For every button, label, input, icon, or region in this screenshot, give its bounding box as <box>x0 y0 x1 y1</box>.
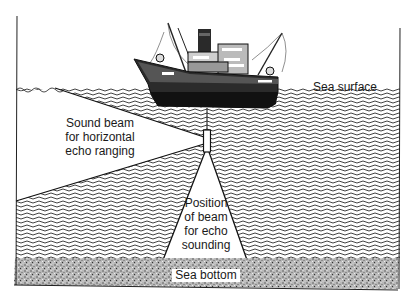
horizontal-beam-line-3: echo ranging <box>52 144 148 158</box>
sea-surface-label: Sea surface <box>300 80 390 94</box>
sea-bottom-label: Sea bottom <box>172 269 240 282</box>
sounding-beam-line-4: sounding <box>170 238 242 252</box>
sounding-beam-line-3: for echo <box>170 224 242 238</box>
transducer <box>204 130 211 152</box>
horizontal-beam-label: Sound beam for horizontal echo ranging <box>52 116 148 158</box>
sounding-beam-line-2: of beam <box>170 210 242 224</box>
sea-surface-text: Sea surface <box>300 80 390 94</box>
horizontal-beam-line-1: Sound beam <box>52 116 148 130</box>
sounding-beam-line-1: Position <box>170 196 242 210</box>
diagram-canvas: Sea surface Sound beam for horizontal ec… <box>0 0 409 301</box>
sea-bottom-text: Sea bottom <box>172 269 240 282</box>
horizontal-beam-line-2: for horizontal <box>52 130 148 144</box>
sounding-beam-label: Position of beam for echo sounding <box>170 196 242 252</box>
ship-illustration <box>134 23 286 108</box>
